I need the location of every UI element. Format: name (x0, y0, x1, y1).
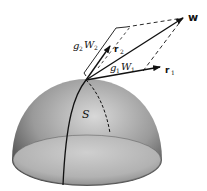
svg-text:2: 2 (79, 45, 83, 52)
hemisphere-base (13, 135, 161, 185)
hemisphere (12, 79, 162, 186)
svg-text:1: 1 (116, 67, 120, 74)
label-g2w2: g 2 W 2 (73, 39, 98, 52)
svg-text:1: 1 (171, 69, 175, 76)
svg-text:r: r (114, 44, 119, 54)
svg-text:1: 1 (131, 66, 135, 73)
surface-label: S (82, 108, 90, 121)
svg-text:2: 2 (120, 48, 124, 55)
label-w: w (188, 11, 198, 24)
dashed-top-edge (126, 18, 183, 27)
svg-text:r: r (165, 65, 170, 75)
vector-decomposition-diagram: S w r 1 r 2 g 1 W 1 g 2 W 2 (0, 0, 207, 191)
label-r1: r 1 (165, 65, 175, 76)
vector-r2 (86, 46, 110, 80)
dashed-right-edge (143, 18, 183, 71)
label-r2: r 2 (114, 44, 124, 55)
svg-text:2: 2 (94, 44, 98, 51)
label-g1w1: g 1 W 1 (110, 61, 135, 74)
